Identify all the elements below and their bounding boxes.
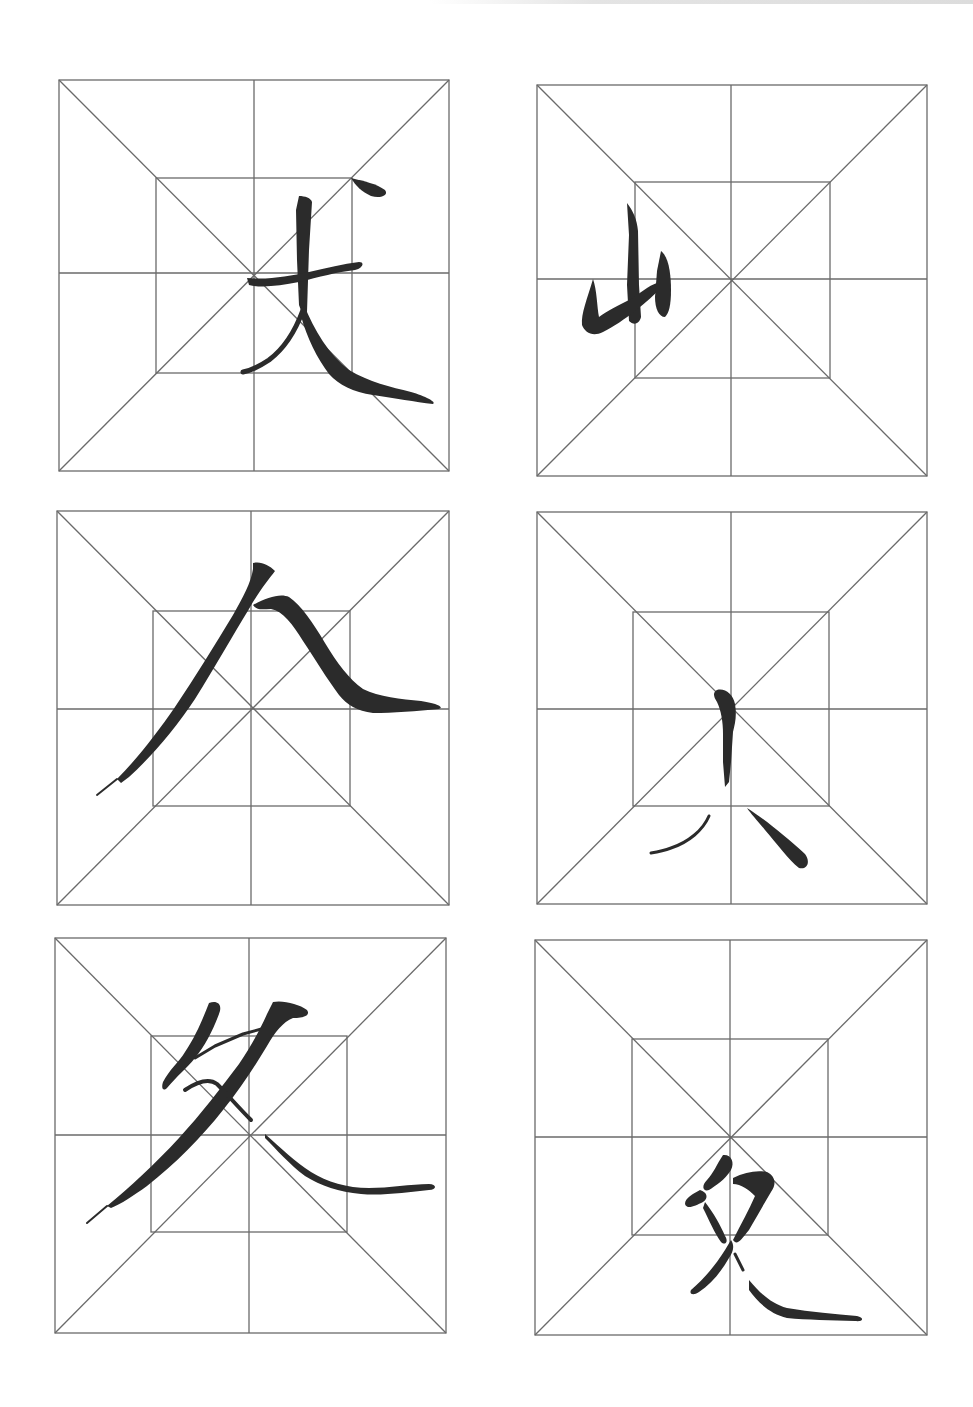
practice-cell-1: 丈 bbox=[59, 80, 449, 471]
practice-cell-2: 山 bbox=[537, 85, 927, 476]
page-top-edge-shadow bbox=[430, 0, 973, 4]
calligraphy-strokes bbox=[243, 178, 434, 404]
calligraphy-strokes bbox=[651, 690, 808, 869]
mizige-grid bbox=[57, 511, 449, 905]
mizige-grid bbox=[537, 512, 927, 904]
practice-cell-4: 八 bbox=[537, 512, 927, 904]
practice-cell-6: 文 bbox=[535, 940, 927, 1335]
mizige-grid bbox=[535, 940, 927, 1335]
calligraphy-strokes bbox=[97, 562, 441, 795]
mizige-grid bbox=[55, 938, 446, 1333]
practice-cell-3: 人 bbox=[57, 511, 449, 905]
practice-cell-5: 处 bbox=[55, 938, 446, 1333]
calligraphy-strokes bbox=[685, 1155, 862, 1321]
mizige-grid bbox=[537, 85, 927, 476]
calligraphy-strokes bbox=[582, 203, 671, 334]
calligraphy-strokes bbox=[87, 1001, 435, 1223]
mizige-grid bbox=[59, 80, 449, 471]
